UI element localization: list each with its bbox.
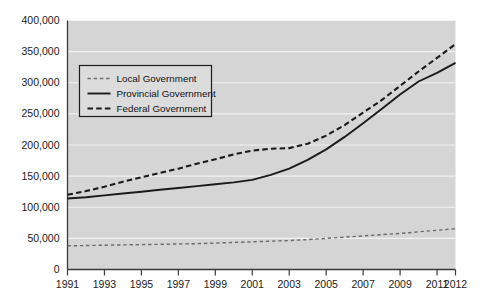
x-axis-tick-label: 2007 xyxy=(351,278,375,290)
y-axis-tick-label: 100,000 xyxy=(22,201,60,213)
x-axis-tick-label: 2003 xyxy=(278,278,302,290)
x-axis-tick-label: 1997 xyxy=(167,278,191,290)
x-axis-tick-label: 2012 xyxy=(444,278,468,290)
chart-canvas: 050,000100,000150,000200,000250,000300,0… xyxy=(0,0,485,302)
x-axis-tick-label: 1995 xyxy=(130,278,154,290)
x-axis-tick-labels: 1991199319951997199920012003200520072009… xyxy=(56,270,468,290)
x-axis-tick-label: 2005 xyxy=(314,278,338,290)
legend-label-provincial-government: Provincial Government xyxy=(117,88,216,99)
legend: Local GovernmentProvincial GovernmentFed… xyxy=(80,66,216,117)
x-axis-tick-label: 2009 xyxy=(388,278,412,290)
x-axis-tick-label: 2001 xyxy=(241,278,265,290)
y-axis-tick-label: 350,000 xyxy=(22,45,60,57)
x-axis-tick-label: 1999 xyxy=(204,278,228,290)
x-axis-tick-label: 1993 xyxy=(93,278,117,290)
legend-label-federal-government: Federal Government xyxy=(117,103,207,114)
y-axis-tick-label: 400,000 xyxy=(22,14,60,26)
y-axis-tick-label: 250,000 xyxy=(22,107,60,119)
y-axis-tick-label: 0 xyxy=(54,263,60,275)
legend-label-local-government: Local Government xyxy=(117,73,197,84)
line-chart: 050,000100,000150,000200,000250,000300,0… xyxy=(0,0,485,302)
y-axis-tick-label: 50,000 xyxy=(27,232,59,244)
y-axis-tick-label: 150,000 xyxy=(22,170,60,182)
x-axis-tick-label: 1991 xyxy=(56,278,80,290)
y-axis-tick-labels: 050,000100,000150,000200,000250,000300,0… xyxy=(22,14,60,275)
y-axis-tick-label: 200,000 xyxy=(22,139,60,151)
y-axis-tick-label: 300,000 xyxy=(22,76,60,88)
